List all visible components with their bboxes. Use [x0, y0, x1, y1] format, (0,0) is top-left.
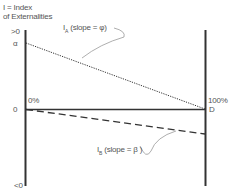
y-tick-zero: 0 — [13, 105, 17, 114]
ia-dotted-line — [26, 43, 205, 109]
y-axis-title-line1: I = Index — [3, 3, 32, 12]
ib-callout-curve — [140, 131, 176, 155]
y-axis-title-line2: of Externalities — [3, 12, 52, 21]
ia-label: IA (slope = φ) — [63, 23, 107, 36]
ib-dashed-line — [26, 110, 205, 135]
y-tick-alpha: α — [13, 39, 17, 48]
y-tick-lt0: <0 — [14, 181, 23, 190]
point-d-label: D — [209, 105, 215, 114]
x-tick-start: 0% — [28, 96, 39, 105]
ia-label-rest: (slope = φ) — [68, 23, 107, 32]
ib-label: IB (slope = β ) — [97, 145, 142, 158]
x-tick-end: 100% — [208, 96, 228, 105]
y-tick-gt0: >0 — [11, 27, 20, 36]
ib-label-rest: (slope = β ) — [102, 145, 142, 154]
